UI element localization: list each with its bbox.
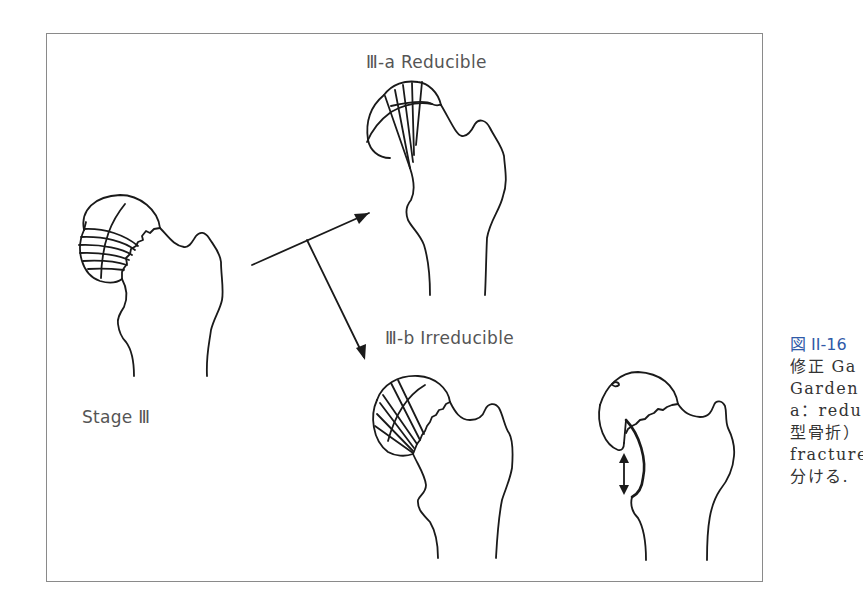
reducible-femur-drawing	[367, 82, 506, 295]
caption-line: a：redu	[790, 400, 863, 422]
stage-iii-femur-drawing	[79, 195, 223, 376]
caption-line: 分ける.	[790, 466, 863, 488]
irreducible-label: Ⅲ-b Irreducible	[385, 328, 514, 348]
figure-caption: 図 II-16 修正 Ga Garden a：redu 型骨折） fractur…	[790, 334, 863, 488]
caption-line: Garden	[790, 378, 863, 400]
irreducible-femur-drawing	[373, 376, 512, 558]
femur-diagram	[0, 0, 863, 613]
caption-line: fracture	[790, 444, 863, 466]
reducible-label: Ⅲ-a Reducible	[366, 52, 487, 72]
stage-label: Stage Ⅲ	[82, 407, 150, 427]
caption-title: 図 II-16	[790, 334, 863, 356]
caption-line: 型骨折）	[790, 422, 863, 444]
caption-line: 修正 Ga	[790, 356, 863, 378]
branch-arrows	[252, 213, 369, 360]
irreducible-detail-drawing	[599, 372, 734, 560]
